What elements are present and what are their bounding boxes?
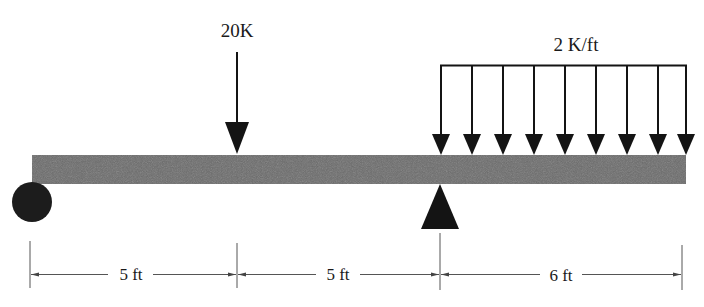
beam-diagram: 20K 2 K/ft: [0, 0, 704, 307]
arrow-down-icon: [618, 134, 636, 155]
distributed-load: 2 K/ft: [432, 34, 695, 155]
dimension-label-3: 6 ft: [549, 266, 572, 285]
arrow-down-icon: [432, 134, 450, 155]
dimension-label-2: 5 ft: [326, 265, 349, 284]
point-load: 20K: [221, 20, 254, 154]
arrow-down-icon: [556, 134, 574, 155]
arrow-down-icon: [494, 134, 512, 155]
arrow-down-icon: [463, 134, 481, 155]
arrow-down-icon: [225, 122, 249, 154]
arrow-down-icon: [587, 134, 605, 155]
arrow-down-icon: [525, 134, 543, 155]
beam: [32, 155, 686, 184]
dimension-label-1: 5 ft: [119, 265, 142, 284]
point-load-label: 20K: [221, 20, 254, 41]
arrow-down-icon: [677, 134, 695, 155]
roller-support-icon: [12, 182, 52, 222]
arrow-down-icon: [649, 134, 667, 155]
pin-support-icon: [421, 184, 459, 229]
distributed-load-arrows: [432, 65, 695, 155]
distributed-load-label: 2 K/ft: [554, 34, 600, 55]
